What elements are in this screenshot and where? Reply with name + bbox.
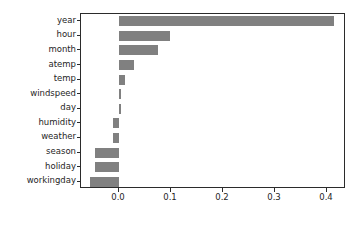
bar-windspeed	[119, 89, 121, 99]
y-tick-mark-windspeed	[77, 93, 81, 94]
y-tick-label-holiday: holiday	[0, 162, 76, 171]
bar-temp	[119, 75, 125, 85]
y-tick-mark-atemp	[77, 64, 81, 65]
y-tick-label-month: month	[0, 45, 76, 54]
x-tick-label-4: 0.4	[306, 192, 346, 202]
y-tick-label-humidity: humidity	[0, 118, 76, 127]
y-tick-mark-hour	[77, 35, 81, 36]
plot-area	[81, 14, 344, 187]
y-tick-mark-workingday	[77, 181, 81, 182]
y-tick-mark-day	[77, 108, 81, 109]
chart-axes	[80, 13, 345, 188]
y-tick-label-temp: temp	[0, 74, 76, 83]
y-tick-mark-holiday	[77, 166, 81, 167]
bar-holiday	[95, 162, 119, 172]
x-tick-mark-2	[222, 188, 223, 192]
y-tick-mark-month	[77, 49, 81, 50]
y-tick-label-year: year	[0, 16, 76, 25]
figure-canvas: yearhourmonthatemptempwindspeeddayhumidi…	[0, 0, 363, 225]
y-tick-mark-humidity	[77, 122, 81, 123]
y-tick-mark-year	[77, 20, 81, 21]
x-tick-label-2: 0.2	[202, 192, 242, 202]
bar-day	[119, 104, 121, 114]
y-tick-mark-season	[77, 152, 81, 153]
bar-month	[119, 45, 158, 55]
x-tick-mark-1	[170, 188, 171, 192]
x-tick-mark-3	[274, 188, 275, 192]
y-tick-label-workingday: workingday	[0, 176, 76, 185]
bar-season	[95, 148, 119, 158]
x-tick-label-1: 0.1	[150, 192, 190, 202]
bar-workingday	[90, 177, 119, 187]
bar-humidity	[113, 118, 119, 128]
x-tick-mark-0	[118, 188, 119, 192]
bar-year	[119, 16, 334, 26]
bar-hour	[119, 31, 170, 41]
y-tick-label-weather: weather	[0, 132, 76, 141]
y-tick-label-hour: hour	[0, 30, 76, 39]
x-tick-label-0: 0.0	[98, 192, 138, 202]
x-tick-label-3: 0.3	[254, 192, 294, 202]
y-tick-label-windspeed: windspeed	[0, 89, 76, 98]
y-tick-label-atemp: atemp	[0, 60, 76, 69]
x-tick-mark-4	[326, 188, 327, 192]
bar-atemp	[119, 60, 134, 70]
bar-weather	[113, 133, 119, 143]
y-tick-label-day: day	[0, 103, 76, 112]
y-tick-mark-weather	[77, 137, 81, 138]
y-tick-label-season: season	[0, 147, 76, 156]
y-tick-mark-temp	[77, 79, 81, 80]
